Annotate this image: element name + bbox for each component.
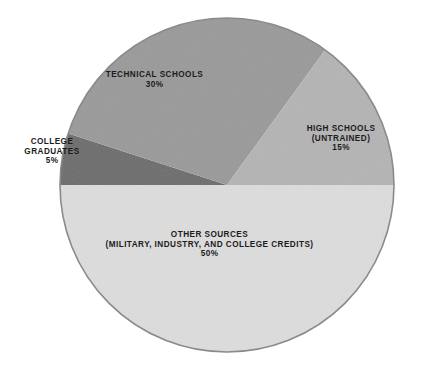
pie-chart-graphic — [0, 0, 421, 371]
pie-chart: TECHNICAL SCHOOLS 30% HIGH SCHOOLS (UNTR… — [0, 0, 421, 371]
pie-slice-other-sources — [60, 185, 394, 352]
